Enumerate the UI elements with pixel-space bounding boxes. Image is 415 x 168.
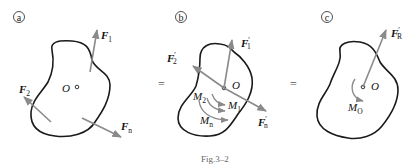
force-label-f2-prime: F′2 <box>166 51 177 66</box>
figure-canvas: a O F1 F2 Fn = b O <box>0 0 415 168</box>
panel-b-marker: b <box>176 12 187 23</box>
svg-text:c: c <box>325 12 330 23</box>
force-label-f1: F1 <box>100 29 112 44</box>
moment-arrow-mo <box>352 79 363 101</box>
panel-c-marker: c <box>322 12 333 23</box>
force-label-fn-prime: F′n <box>257 115 268 130</box>
figure-caption: Fig.3–2 <box>201 154 229 164</box>
svg-text:a: a <box>17 12 22 23</box>
panel-b: b O F′1 F′2 F′n M2 M1 Mn <box>166 12 268 137</box>
moment-arrow-m2 <box>212 94 225 105</box>
panel-a-marker: a <box>14 12 25 23</box>
force-label-fr-prime: F′R <box>390 26 402 41</box>
svg-text:b: b <box>179 12 184 23</box>
rigid-body-outline <box>317 41 398 138</box>
equals-sign-1: = <box>158 77 165 91</box>
force-arrow-f2 <box>24 97 51 122</box>
point-o: O <box>62 82 79 94</box>
moment-label-mo: MO <box>347 101 363 116</box>
rigid-body-outline <box>178 44 252 137</box>
force-arrow-fn <box>82 118 121 137</box>
svg-text:O: O <box>232 79 240 91</box>
panel-c: c O F′R MO <box>317 12 402 139</box>
rigid-body-outline <box>31 41 110 137</box>
equals-sign-2: = <box>290 77 297 91</box>
panel-a: a O F1 F2 Fn <box>14 12 133 138</box>
svg-text:O: O <box>62 82 70 94</box>
svg-text:O: O <box>371 80 379 92</box>
force-label-f2: F2 <box>18 83 30 98</box>
force-arrow-fr-prime <box>363 30 386 87</box>
moment-label-m1: M1 <box>227 99 241 114</box>
force-label-fn: Fn <box>120 120 132 135</box>
force-label-f1-prime: F′1 <box>240 36 251 51</box>
